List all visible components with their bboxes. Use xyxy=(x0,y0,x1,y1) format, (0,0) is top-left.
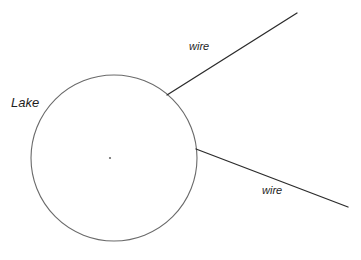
upper-wire-line xyxy=(167,13,297,95)
lake-center-point-icon xyxy=(109,157,111,159)
lower-wire-line xyxy=(196,149,348,207)
lower-wire-label: wire xyxy=(262,185,282,196)
diagram-canvas: Lake wire wire xyxy=(0,0,361,260)
lake-circle xyxy=(31,75,197,241)
diagram-svg xyxy=(0,0,361,260)
upper-wire-label: wire xyxy=(189,41,209,52)
lake-label: Lake xyxy=(11,96,39,109)
